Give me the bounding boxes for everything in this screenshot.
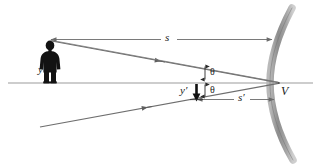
- label-angle-lower: θ: [210, 85, 215, 95]
- optics-ray-diagram: s s′ y y′ θ θ V: [0, 0, 320, 167]
- person-silhouette: [40, 41, 61, 84]
- diagram-canvas: [0, 0, 320, 167]
- object-distance-dimension: [51, 33, 272, 46]
- chief-ray-upper: [51, 40, 279, 82]
- label-image-height: y′: [180, 85, 187, 96]
- label-image-distance: s′: [238, 92, 245, 103]
- label-angle-upper: θ: [210, 67, 215, 77]
- vertex-marker: [278, 82, 280, 84]
- label-vertex: V: [281, 85, 288, 97]
- image-distance-dimension: [197, 93, 274, 106]
- label-object-height: y: [38, 64, 43, 75]
- incident-ray: [52, 41, 279, 83]
- label-object-distance: s: [165, 32, 169, 43]
